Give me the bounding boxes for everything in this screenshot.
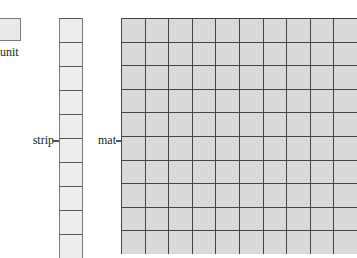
- mat-cell: [168, 230, 192, 254]
- mat-cell: [310, 42, 334, 66]
- mat-cell: [310, 207, 334, 231]
- mat-cell: [333, 136, 357, 160]
- unit-square: [0, 18, 21, 41]
- mat-cell: [145, 230, 169, 254]
- mat-cell: [168, 183, 192, 207]
- mat-cell: [121, 230, 145, 254]
- mat-cell: [168, 136, 192, 160]
- mat-cell: [263, 160, 287, 184]
- mat-cell: [333, 207, 357, 231]
- mat-cell: [121, 42, 145, 66]
- mat-cell: [286, 112, 310, 136]
- mat-cell: [263, 230, 287, 254]
- mat-cell: [121, 207, 145, 231]
- mat-cell: [310, 183, 334, 207]
- mat-cell: [263, 42, 287, 66]
- mat-cell: [310, 112, 334, 136]
- mat-cell: [286, 160, 310, 184]
- mat-cell: [310, 65, 334, 89]
- mat-cell: [333, 183, 357, 207]
- strip-cell: [59, 234, 83, 258]
- mat-cell: [145, 42, 169, 66]
- mat-cell: [215, 18, 239, 42]
- mat-cell: [168, 89, 192, 113]
- mat-cell: [286, 136, 310, 160]
- mat-cell: [310, 160, 334, 184]
- mat-cell: [192, 160, 216, 184]
- mat-cell: [263, 89, 287, 113]
- mat-cell: [121, 18, 145, 42]
- mat-cell: [168, 18, 192, 42]
- mat-cell: [192, 65, 216, 89]
- mat-cell: [263, 207, 287, 231]
- strip-cell: [59, 138, 83, 162]
- mat-cell: [239, 18, 263, 42]
- mat-cell: [333, 112, 357, 136]
- mat-cell: [263, 183, 287, 207]
- mat-cell: [192, 42, 216, 66]
- strip-cell: [59, 90, 83, 114]
- strip-cell: [59, 42, 83, 66]
- mat-cell: [145, 183, 169, 207]
- mat-cell: [215, 160, 239, 184]
- mat-label: mat: [98, 134, 116, 146]
- mat-cell: [215, 42, 239, 66]
- mat-cell: [239, 89, 263, 113]
- mat-cell: [286, 230, 310, 254]
- mat-cell: [215, 230, 239, 254]
- mat-cell: [239, 112, 263, 136]
- mat-cell: [121, 183, 145, 207]
- strip-label-tick: [52, 140, 59, 142]
- mat-cell: [192, 136, 216, 160]
- mat-cell: [239, 230, 263, 254]
- mat-cell: [333, 160, 357, 184]
- mat-cell: [239, 65, 263, 89]
- mat-cell: [168, 160, 192, 184]
- mat-cell: [121, 112, 145, 136]
- strip-cell: [59, 114, 83, 138]
- mat-cell: [333, 18, 357, 42]
- mat-cell: [145, 136, 169, 160]
- mat-cell: [168, 112, 192, 136]
- mat-cell: [215, 136, 239, 160]
- mat-cell: [310, 136, 334, 160]
- mat-cell: [145, 65, 169, 89]
- unit-label: unit: [0, 46, 19, 58]
- mat-cell: [121, 136, 145, 160]
- mat-cell: [286, 65, 310, 89]
- mat-cell: [239, 160, 263, 184]
- mat-cell: [215, 183, 239, 207]
- mat-cell: [168, 65, 192, 89]
- mat-cell: [310, 89, 334, 113]
- mat-cell: [263, 65, 287, 89]
- mat-cell: [168, 207, 192, 231]
- mat-cell: [215, 65, 239, 89]
- mat-cell: [263, 136, 287, 160]
- mat-cell: [168, 42, 192, 66]
- mat-cell: [310, 18, 334, 42]
- mat-cell: [239, 183, 263, 207]
- mat-cell: [239, 42, 263, 66]
- mat-cell: [310, 230, 334, 254]
- strip-cell: [59, 66, 83, 90]
- mat-cell: [121, 65, 145, 89]
- mat-cell: [286, 89, 310, 113]
- mat-cell: [192, 18, 216, 42]
- mat-cell: [286, 18, 310, 42]
- mat-cell: [286, 42, 310, 66]
- mat-cell: [192, 230, 216, 254]
- mat-cell: [333, 89, 357, 113]
- mat-cell: [333, 42, 357, 66]
- mat-cell: [121, 89, 145, 113]
- mat-cell: [333, 65, 357, 89]
- mat-cell: [145, 18, 169, 42]
- mat-cell: [192, 112, 216, 136]
- strip: [59, 18, 83, 258]
- mat-cell: [215, 89, 239, 113]
- strip-cell: [59, 186, 83, 210]
- strip-cell: [59, 210, 83, 234]
- strip-label: strip: [33, 134, 54, 146]
- mat-cell: [145, 160, 169, 184]
- mat-grid: [121, 18, 357, 254]
- mat-cell: [215, 112, 239, 136]
